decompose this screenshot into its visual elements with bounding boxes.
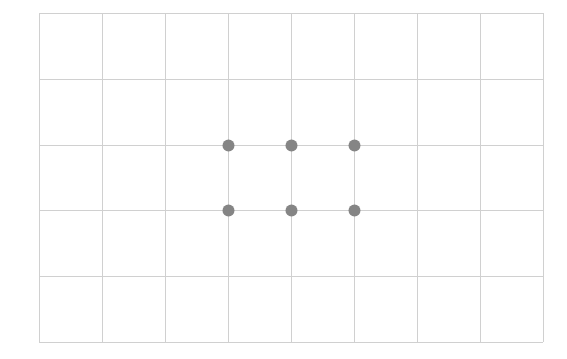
dot-grid-diagram bbox=[0, 0, 567, 359]
grid-dot bbox=[349, 205, 361, 217]
grid-lines bbox=[39, 13, 544, 343]
grid-dot bbox=[286, 140, 298, 152]
grid-dot bbox=[349, 140, 361, 152]
grid-dot bbox=[223, 205, 235, 217]
grid-dot bbox=[223, 140, 235, 152]
grid-dot bbox=[286, 205, 298, 217]
